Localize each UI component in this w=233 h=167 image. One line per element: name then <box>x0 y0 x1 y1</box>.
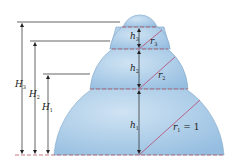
label-H1: H1 <box>41 102 53 113</box>
label-H3: H3 <box>14 79 26 90</box>
dome-top-cap <box>123 15 157 27</box>
label-H2: H2 <box>28 89 40 100</box>
label-r1: r1 = 1 <box>173 122 200 133</box>
stacked-spheres-diagram: H3 H2 H1 h1 h2 h3 r1 = 1 r2 r3 <box>0 0 233 167</box>
